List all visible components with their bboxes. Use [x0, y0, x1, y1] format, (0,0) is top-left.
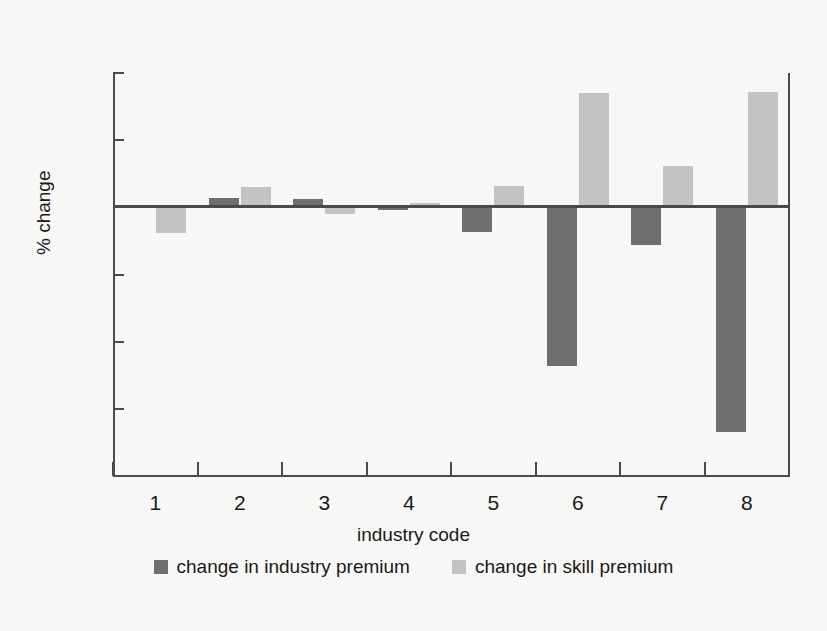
zero-baseline	[113, 205, 790, 208]
y-axis-tick	[113, 475, 124, 477]
x-axis-tick	[619, 462, 621, 476]
bar	[325, 207, 355, 214]
x-axis-tick	[197, 462, 199, 476]
y-axis-tick	[113, 341, 124, 343]
legend-label: change in skill premium	[475, 556, 674, 578]
bar	[156, 207, 186, 233]
x-axis-tick	[366, 462, 368, 476]
x-axis-tick-label: 3	[294, 492, 354, 513]
x-axis-tick	[450, 462, 452, 476]
legend-label: change in industry premium	[177, 556, 410, 578]
x-axis-tick	[535, 462, 537, 476]
legend-swatch-icon	[154, 560, 168, 574]
x-axis-tick-label: 2	[210, 492, 270, 513]
x-axis-tick	[112, 462, 114, 476]
y-axis-tick	[113, 72, 124, 74]
bar	[547, 207, 577, 366]
plot-area	[113, 73, 789, 475]
y-axis-tick	[113, 206, 124, 208]
x-axis-tick-label: 6	[548, 492, 608, 513]
x-axis-tick-label: 8	[717, 492, 777, 513]
y-axis-tick	[113, 274, 124, 276]
x-axis-title: industry code	[0, 524, 827, 546]
legend-item: change in industry premium	[154, 556, 410, 578]
chart-figure: 1050−5−10−15−20 12345678 industry code %…	[0, 0, 827, 631]
legend-item: change in skill premium	[452, 556, 674, 578]
y-axis-tick	[113, 408, 124, 410]
x-axis-tick-label: 7	[632, 492, 692, 513]
legend-swatch-icon	[452, 560, 466, 574]
bar	[663, 166, 693, 208]
x-axis-tick-label: 4	[379, 492, 439, 513]
bar	[462, 207, 492, 231]
plot-right-border	[788, 73, 790, 476]
bar	[748, 92, 778, 208]
y-axis-tick	[113, 139, 124, 141]
x-axis-tick-label: 1	[125, 492, 185, 513]
chart-legend: change in industry premiumchange in skil…	[0, 556, 827, 578]
x-axis-tick	[704, 462, 706, 476]
bar	[579, 93, 609, 207]
bar	[716, 207, 746, 431]
x-axis-tick-label: 5	[463, 492, 523, 513]
x-axis-tick	[281, 462, 283, 476]
x-axis-tick	[788, 462, 790, 476]
bar	[631, 207, 661, 245]
y-axis-title: % change	[33, 170, 55, 255]
